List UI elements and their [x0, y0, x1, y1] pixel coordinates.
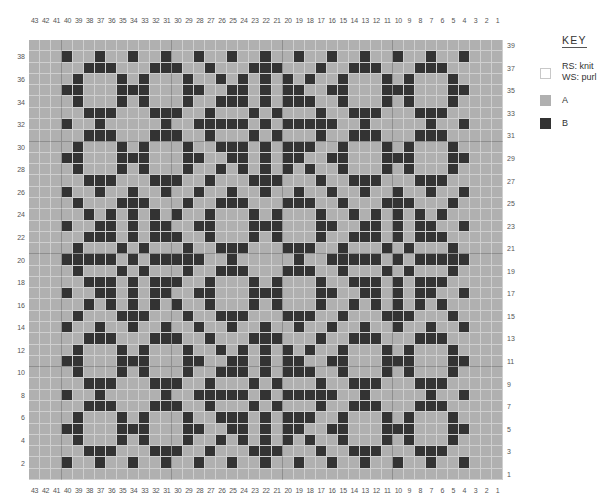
chart-cell — [139, 209, 150, 220]
chart-cell — [62, 51, 73, 62]
chart-cell — [481, 51, 492, 62]
chart-cell — [205, 446, 216, 457]
chart-cell — [426, 254, 437, 265]
chart-cell — [481, 311, 492, 322]
chart-cell — [249, 40, 260, 51]
chart-cell — [272, 187, 283, 198]
chart-cell — [459, 401, 470, 412]
chart-cell — [183, 175, 194, 186]
chart-cell — [448, 130, 459, 141]
chart-cell — [283, 435, 294, 446]
chart-cell — [227, 299, 238, 310]
column-label-top: 1 — [492, 16, 503, 25]
chart-cell — [238, 108, 249, 119]
chart-cell — [283, 412, 294, 423]
chart-cell — [404, 401, 415, 412]
chart-cell — [481, 457, 492, 468]
chart-cell — [183, 40, 194, 51]
chart-cell — [73, 243, 84, 254]
chart-cell — [29, 232, 40, 243]
chart-cell — [128, 367, 139, 378]
chart-cell — [183, 288, 194, 299]
chart-cell — [216, 74, 227, 85]
chart-cell — [327, 390, 338, 401]
chart-cell — [294, 412, 305, 423]
chart-cell — [360, 333, 371, 344]
chart-cell — [84, 356, 95, 367]
chart-cell — [492, 435, 503, 446]
chart-cell — [404, 74, 415, 85]
column-label-top: 39 — [73, 16, 84, 25]
chart-cell — [139, 446, 150, 457]
chart-cell — [183, 367, 194, 378]
chart-cell — [360, 85, 371, 96]
chart-cell — [117, 254, 128, 265]
chart-cell — [393, 232, 404, 243]
chart-cell — [84, 333, 95, 344]
chart-cell — [448, 63, 459, 74]
chart-cell — [327, 424, 338, 435]
chart-cell — [40, 153, 51, 164]
column-label-bottom: 18 — [305, 486, 316, 495]
chart-cell — [305, 277, 316, 288]
chart-cell — [470, 85, 481, 96]
column-label-bottom: 4 — [459, 486, 470, 495]
chart-cell — [139, 457, 150, 468]
chart-cell — [29, 390, 40, 401]
chart-cell — [62, 142, 73, 153]
column-label-top: 11 — [382, 16, 393, 25]
chart-cell — [283, 198, 294, 209]
chart-cell — [227, 153, 238, 164]
chart-cell — [371, 74, 382, 85]
chart-cell — [117, 96, 128, 107]
chart-cell — [426, 322, 437, 333]
chart-cell — [62, 277, 73, 288]
chart-cell — [161, 74, 172, 85]
chart-cell — [51, 390, 62, 401]
chart-cell — [227, 142, 238, 153]
chart-cell — [338, 198, 349, 209]
chart-cell — [294, 469, 305, 480]
chart-cell — [260, 74, 271, 85]
chart-cell — [316, 74, 327, 85]
chart-cell — [283, 424, 294, 435]
chart-cell — [316, 164, 327, 175]
chart-cell — [481, 299, 492, 310]
chart-cell — [459, 254, 470, 265]
chart-cell — [51, 187, 62, 198]
chart-cell — [84, 74, 95, 85]
chart-cell — [272, 288, 283, 299]
chart-cell — [128, 175, 139, 186]
chart-cell — [272, 108, 283, 119]
chart-cell — [459, 446, 470, 457]
chart-cell — [371, 108, 382, 119]
chart-cell — [183, 254, 194, 265]
chart-cell — [415, 209, 426, 220]
column-label-bottom: 35 — [117, 486, 128, 495]
chart-cell — [249, 299, 260, 310]
chart-cell — [194, 401, 205, 412]
chart-cell — [51, 254, 62, 265]
chart-cell — [106, 266, 117, 277]
chart-cell — [227, 435, 238, 446]
chart-cell — [183, 345, 194, 356]
column-label-bottom: 13 — [360, 486, 371, 495]
chart-cell — [161, 232, 172, 243]
chart-cell — [40, 367, 51, 378]
chart-cell — [360, 153, 371, 164]
chart-cell — [338, 232, 349, 243]
chart-cell — [249, 74, 260, 85]
chart-cell — [305, 266, 316, 277]
chart-cell — [316, 130, 327, 141]
chart-cell — [393, 457, 404, 468]
chart-cell — [172, 232, 183, 243]
chart-cell — [481, 367, 492, 378]
chart-cell — [327, 119, 338, 130]
chart-cell — [117, 277, 128, 288]
chart-cell — [150, 457, 161, 468]
chart-cell — [316, 333, 327, 344]
chart-cell — [62, 311, 73, 322]
chart-cell — [216, 378, 227, 389]
row-label-left: 12 — [10, 346, 25, 355]
column-label-top: 25 — [227, 16, 238, 25]
